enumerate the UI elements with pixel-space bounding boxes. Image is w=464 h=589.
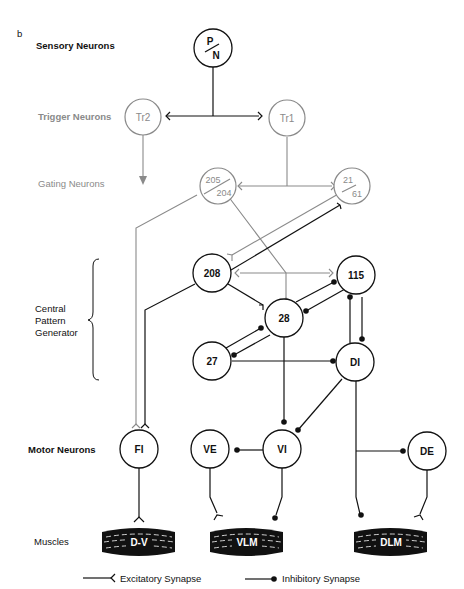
inhibitory-synapse-icon — [271, 576, 277, 582]
neuron-di[interactable]: DI — [336, 343, 374, 381]
n115-to-n28-line — [306, 289, 345, 311]
neuron-pn-top-label: P — [207, 36, 214, 47]
inhibitory-synapse-icon — [400, 448, 406, 454]
legend-excitatory: Excitatory Synapse — [83, 573, 201, 584]
inhibitory-synapse-icon — [258, 325, 264, 331]
inhibitory-synapse-icon — [281, 419, 287, 425]
n28-to-n27-line — [234, 335, 270, 355]
excitatory-synapse-icon — [132, 424, 140, 428]
muscle-dv-label: D-V — [130, 537, 148, 548]
row-label-motor: Motor Neurons — [28, 444, 96, 455]
neuron-115-label: 115 — [348, 270, 365, 281]
neuron-fi-label: FI — [135, 444, 144, 455]
neuron-ve-label: VE — [203, 444, 217, 455]
row-label-muscles: Muscles — [34, 536, 69, 547]
muscle-dv[interactable]: D-V — [102, 528, 175, 556]
neuron-21-label: 21 — [343, 175, 353, 185]
neuron-208[interactable]: 208 — [193, 254, 231, 292]
vi-output-line — [276, 468, 282, 515]
n208-to-n28-line — [228, 284, 263, 305]
legend-excitatory-label: Excitatory Synapse — [120, 573, 201, 584]
excitatory-synapse-icon — [134, 517, 144, 522]
inhibitory-synapse-icon — [331, 279, 337, 285]
neuron-115[interactable]: 115 — [337, 256, 375, 294]
muscle-dlm-label: DLM — [380, 537, 402, 548]
row-label-cpg-3: Generator — [35, 327, 78, 338]
neuron-pn-bottom-label: N — [212, 50, 219, 61]
neuron-de-label: DE — [420, 446, 434, 457]
neuron-tr2[interactable]: Tr2 — [125, 99, 161, 135]
g205-to-n28-line — [228, 196, 286, 300]
g21-to-n208-black-line — [231, 205, 340, 270]
neuron-pn[interactable]: P N — [194, 29, 232, 67]
inhibitory-synapse-icon — [359, 336, 365, 342]
muscle-dlm[interactable]: DLM — [354, 528, 427, 556]
neuron-28-label: 28 — [278, 313, 290, 324]
di-to-dlm-line — [356, 381, 360, 514]
neuron-vi-label: VI — [277, 444, 287, 455]
muscle-vlm[interactable]: VLM — [210, 528, 283, 556]
neuron-tr1[interactable]: Tr1 — [269, 100, 305, 136]
inhibitory-synapse-icon — [295, 427, 301, 433]
ve-output-line — [210, 468, 217, 513]
g21-to-n208-line — [232, 193, 340, 255]
inhibitory-synapse-icon — [272, 515, 278, 521]
neuron-de[interactable]: DE — [408, 432, 446, 470]
neuron-tr1-label: Tr1 — [280, 113, 295, 124]
neuron-61-label: 61 — [352, 189, 362, 199]
row-label-gating: Gating Neurons — [38, 178, 105, 189]
n27-to-n28-line — [226, 328, 261, 348]
excitatory-synapse-icon — [111, 574, 115, 582]
di-to-vi-line — [298, 379, 342, 430]
row-label-cpg-2: Pattern — [35, 315, 66, 326]
inhibitory-synapse-icon — [234, 447, 240, 453]
row-label-trigger: Trigger Neurons — [38, 111, 111, 122]
row-label-sensory: Sensory Neurons — [36, 40, 115, 51]
neuron-204-label: 204 — [216, 188, 231, 198]
excitatory-synapse-icon — [214, 515, 223, 520]
excitatory-synapse-icon — [235, 269, 239, 277]
neuron-fi[interactable]: FI — [120, 430, 158, 468]
neuron-vi[interactable]: VI — [263, 430, 301, 468]
arrowhead-icon — [139, 176, 147, 185]
muscle-vlm-label: VLM — [236, 537, 257, 548]
neuron-208-label: 208 — [204, 268, 221, 279]
panel-label: b — [17, 28, 22, 39]
neuron-205-204[interactable]: 205 204 — [200, 168, 236, 204]
neuron-28[interactable]: 28 — [265, 299, 303, 337]
neuron-tr2-label: Tr2 — [136, 112, 151, 123]
neuron-27-label: 27 — [206, 356, 218, 367]
excitatory-synapse-icon — [414, 515, 423, 520]
legend-inhibitory-label: Inhibitory Synapse — [282, 573, 360, 584]
inhibitory-synapse-icon — [303, 308, 309, 314]
excitatory-synapse-icon — [259, 305, 263, 310]
row-label-cpg-1: Central — [35, 303, 66, 314]
inhibitory-synapse-icon — [330, 358, 336, 364]
neuron-21-61[interactable]: 21 61 — [334, 168, 370, 204]
neuron-ve[interactable]: VE — [191, 430, 229, 468]
legend-inhibitory: Inhibitory Synapse — [245, 573, 360, 584]
neuron-di-label: DI — [350, 357, 360, 368]
inhibitory-synapse-icon — [358, 512, 364, 518]
neuron-27[interactable]: 27 — [193, 342, 231, 380]
de-output-line — [420, 469, 427, 514]
inhibitory-synapse-icon — [347, 294, 353, 300]
excitatory-synapse-icon — [141, 424, 149, 428]
neural-circuit-diagram: b Sensory Neurons Trigger Neurons Gating… — [0, 0, 464, 589]
neuron-205-label: 205 — [205, 175, 220, 185]
inhibitory-synapse-icon — [231, 352, 237, 358]
n208-to-fi-line — [145, 284, 195, 424]
cpg-brace — [88, 259, 99, 380]
excitatory-synapse-icon — [227, 254, 232, 261]
legend: Excitatory Synapse Inhibitory Synapse — [83, 573, 360, 584]
